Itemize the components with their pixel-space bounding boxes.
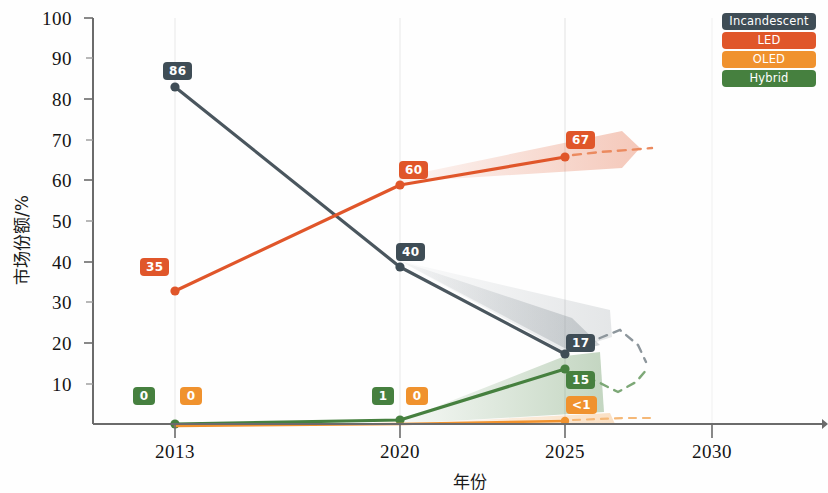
legend-item-oled[interactable]: OLED [722, 51, 816, 68]
value-badge: 1 [372, 387, 394, 405]
band-led [400, 131, 640, 182]
x-tick-label: 2020 [360, 441, 440, 463]
x-tick-label: 2013 [135, 441, 215, 463]
uncertainty-bands [400, 131, 640, 424]
y-tick-label: 80 [20, 89, 72, 111]
legend-item-led[interactable]: LED [722, 32, 816, 49]
y-tick-label: 10 [20, 374, 72, 396]
axis-spines [84, 18, 828, 438]
legend-item-incandescent[interactable]: Incandescent [722, 13, 816, 30]
value-badge: 67 [566, 131, 595, 149]
y-tick-label: 100 [20, 8, 72, 30]
y-tick-label: 90 [20, 48, 72, 70]
value-badge: 0 [180, 387, 202, 405]
x-tick-label: 2030 [672, 441, 752, 463]
y-tick-label: 30 [20, 292, 72, 314]
value-badge: 60 [399, 161, 428, 179]
value-badge: 86 [163, 62, 192, 80]
value-badge: 15 [566, 371, 595, 389]
legend-item-hybrid[interactable]: Hybrid [722, 70, 816, 87]
value-badge: 40 [396, 243, 425, 261]
value-badge: 17 [566, 334, 595, 352]
y-axis-title: 市场份额/% [8, 195, 33, 285]
y-tick-label: 70 [20, 130, 72, 152]
x-tick-label: 2025 [525, 441, 605, 463]
value-badge: 0 [406, 387, 428, 405]
x-axis-title: 年份 [410, 468, 530, 493]
y-tick-label: 60 [20, 170, 72, 192]
vertical-gridlines [175, 18, 712, 424]
value-badge: <1 [566, 396, 597, 414]
y-tick-label: 20 [20, 333, 72, 355]
market-share-line-chart: 100 90 80 70 60 50 40 30 20 10 2013 2020… [0, 0, 828, 493]
chart-legend: Incandescent LED OLED Hybrid [722, 13, 816, 89]
value-badge: 35 [140, 258, 169, 276]
value-badge: 0 [133, 387, 155, 405]
